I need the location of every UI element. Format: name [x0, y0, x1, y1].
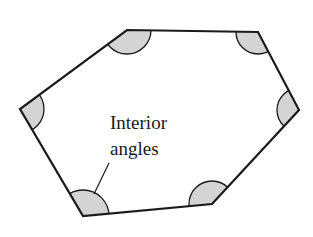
interior-label-line2: angles: [110, 139, 159, 158]
interior-label-line1: Interior: [110, 113, 167, 132]
diagram-canvas: Interior angles: [0, 0, 313, 237]
angle-arc-right: [277, 88, 313, 132]
angle-arc-left: [0, 85, 44, 133]
label-leader-line: [94, 163, 109, 194]
